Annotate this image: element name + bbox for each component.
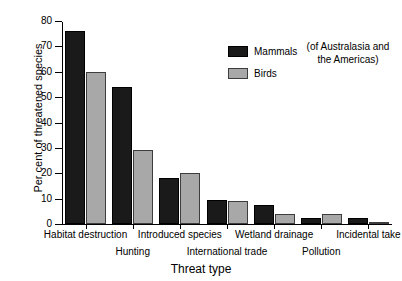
bar-mammals-6 (348, 218, 368, 224)
y-tick-60: 60 (55, 72, 62, 73)
x-tick-5 (321, 225, 322, 229)
x-label-0: Habitat destruction (44, 229, 127, 240)
legend-label: Birds (254, 68, 277, 79)
bar-mammals-5 (301, 218, 321, 224)
bar-mammals-4 (254, 205, 274, 224)
y-axis-line (62, 22, 63, 225)
x-tick-1 (133, 225, 134, 229)
bar-birds-4 (275, 214, 295, 224)
y-tick-label: 40 (41, 117, 52, 128)
y-tick-label: 30 (41, 142, 52, 153)
y-tick-0: 0 (55, 224, 62, 225)
legend-item-mammals: Mammals (228, 40, 297, 62)
legend-label: Mammals (254, 46, 297, 57)
y-tick-label: 20 (41, 167, 52, 178)
bar-birds-0 (86, 72, 106, 224)
y-tick-20: 20 (55, 173, 62, 174)
legend-item-birds: Birds (228, 62, 297, 84)
y-tick-label: 50 (41, 91, 52, 102)
bar-mammals-2 (159, 178, 179, 224)
bar-mammals-1 (112, 87, 132, 224)
legend-annotation-line: the Americas) (296, 53, 400, 66)
x-label-1: Hunting (115, 246, 149, 257)
y-tick-80: 80 (55, 21, 62, 22)
x-label-6: Incidental take (336, 229, 401, 240)
x-label-5: Pollution (302, 246, 340, 257)
y-tick-40: 40 (55, 123, 62, 124)
y-tick-label: 80 (41, 15, 52, 26)
bar-chart-figure: Per cent of threatened species 010203040… (0, 0, 402, 281)
y-tick-50: 50 (55, 97, 62, 98)
bar-birds-1 (133, 150, 153, 224)
bar-birds-5 (322, 214, 342, 224)
legend-annotation: (of Australasia andthe Americas) (296, 40, 400, 66)
y-tick-label: 10 (41, 193, 52, 204)
bar-birds-2 (180, 173, 200, 224)
y-tick-label: 60 (41, 66, 52, 77)
bar-mammals-0 (65, 31, 85, 224)
legend: MammalsBirds (228, 40, 297, 84)
legend-swatch-birds (228, 68, 248, 79)
x-label-3: International trade (187, 246, 268, 257)
bar-birds-3 (228, 201, 248, 224)
legend-swatch-mammals (228, 46, 248, 57)
y-tick-10: 10 (55, 199, 62, 200)
legend-annotation-line: (of Australasia and (296, 40, 400, 53)
x-label-2: Introduced species (138, 229, 222, 240)
y-tick-label: 70 (41, 40, 52, 51)
y-tick-70: 70 (55, 46, 62, 47)
x-axis-title: Threat type (0, 262, 402, 276)
y-tick-label: 0 (46, 218, 52, 229)
y-tick-30: 30 (55, 148, 62, 149)
bar-mammals-3 (207, 200, 227, 224)
x-label-4: Wetland drainage (235, 229, 313, 240)
x-tick-3 (227, 225, 228, 229)
bar-birds-6 (369, 222, 389, 224)
